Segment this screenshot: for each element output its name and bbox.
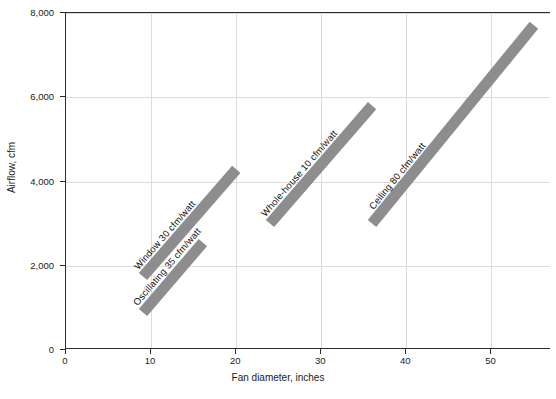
y-tick-mark — [60, 181, 65, 182]
x-tick-mark — [405, 349, 406, 354]
y-tick-label: 6,000 — [2, 91, 54, 102]
y-tick-mark — [60, 12, 65, 13]
y-tick-mark — [60, 265, 65, 266]
gridline-vertical — [236, 13, 237, 348]
y-tick-mark — [60, 96, 65, 97]
x-tick-label: 10 — [145, 355, 156, 366]
gridline-vertical — [491, 13, 492, 348]
y-tick-label: 2,000 — [2, 259, 54, 270]
x-tick-label: 20 — [230, 355, 241, 366]
x-tick-mark — [320, 349, 321, 354]
chart-figure: Oscillating 35 cfm/wattWindow 30 cfm/wat… — [0, 0, 556, 399]
x-tick-mark — [235, 349, 236, 354]
x-tick-label: 50 — [485, 355, 496, 366]
gridline-horizontal — [66, 13, 550, 14]
x-tick-label: 40 — [400, 355, 411, 366]
band-label: Whole-house 10 cfm/watt — [259, 128, 340, 219]
x-tick-label: 0 — [62, 355, 67, 366]
y-axis-title: Airflow, cfm — [6, 113, 17, 223]
gridline-vertical — [321, 13, 322, 348]
y-tick-label: 8,000 — [2, 7, 54, 18]
y-tick-mark — [60, 349, 65, 350]
x-tick-label: 30 — [315, 355, 326, 366]
y-tick-label: 0 — [2, 344, 54, 355]
x-axis-title: Fan diameter, inches — [0, 372, 556, 383]
x-tick-mark — [150, 349, 151, 354]
x-tick-mark — [490, 349, 491, 354]
plot-area: Oscillating 35 cfm/wattWindow 30 cfm/wat… — [65, 12, 550, 349]
x-tick-mark — [65, 349, 66, 354]
data-band — [368, 22, 538, 227]
